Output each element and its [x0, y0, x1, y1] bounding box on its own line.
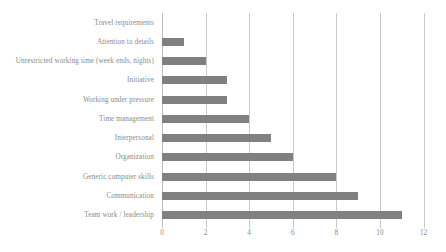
bar-row	[162, 90, 424, 109]
x-tick-mark	[336, 225, 337, 228]
bar	[162, 153, 293, 161]
category-label: Communication	[106, 192, 154, 200]
bar	[162, 115, 249, 123]
category-label: Initiative	[127, 76, 154, 84]
x-tick-mark	[380, 225, 381, 228]
x-tick-label: 2	[204, 229, 208, 237]
category-label-cell: Time management	[0, 109, 158, 128]
category-label: Generic computer skills	[83, 173, 154, 181]
x-tick-mark	[293, 225, 294, 228]
x-tick-label: 4	[247, 229, 251, 237]
category-label: Interpersonal	[115, 134, 154, 142]
category-label: Travel requirements	[94, 19, 154, 27]
x-tick-label: 8	[335, 229, 339, 237]
x-tick-label: 6	[291, 229, 295, 237]
bar-row	[162, 52, 424, 71]
bar-row	[162, 32, 424, 51]
x-tick-mark	[424, 225, 425, 228]
category-label: Team work / leadership	[84, 211, 154, 219]
bar-row	[162, 129, 424, 148]
bar-row	[162, 186, 424, 205]
bar	[162, 173, 336, 181]
category-label-cell: Travel requirements	[0, 13, 158, 32]
x-tick-mark	[249, 225, 250, 228]
bar	[162, 192, 358, 200]
x-tick-mark	[206, 225, 207, 228]
category-axis: Travel requirementsAttention to detailsU…	[0, 13, 158, 225]
category-label: Unrestricted working time (week ends, ni…	[16, 57, 154, 65]
bar-row	[162, 206, 424, 225]
bar-row	[162, 13, 424, 32]
category-label: Attention to details	[97, 38, 154, 46]
category-label-cell: Attention to details	[0, 32, 158, 51]
category-label-cell: Unrestricted working time (week ends, ni…	[0, 52, 158, 71]
category-label-cell: Generic computer skills	[0, 167, 158, 186]
category-label: Time management	[99, 115, 154, 123]
category-label-cell: Initiative	[0, 71, 158, 90]
category-label: Organization	[115, 153, 154, 161]
bar	[162, 134, 271, 142]
bar	[162, 96, 227, 104]
category-label-cell: Interpersonal	[0, 129, 158, 148]
x-tick-label: 0	[160, 229, 164, 237]
bars-layer	[162, 13, 424, 225]
category-label-cell: Team work / leadership	[0, 206, 158, 225]
category-label-cell: Organization	[0, 148, 158, 167]
bar-row	[162, 109, 424, 128]
bar	[162, 57, 206, 65]
category-label: Working under pressure	[83, 96, 154, 104]
plot-area	[162, 13, 424, 225]
value-axis: 024681012	[162, 225, 424, 245]
x-tick-mark	[162, 225, 163, 228]
bar	[162, 76, 227, 84]
gridline-12	[424, 13, 425, 225]
bar-row	[162, 71, 424, 90]
bar	[162, 38, 184, 46]
x-tick-label: 10	[376, 229, 383, 237]
category-label-cell: Working under pressure	[0, 90, 158, 109]
bar-row	[162, 167, 424, 186]
bar-row	[162, 148, 424, 167]
category-label-cell: Communication	[0, 186, 158, 205]
bar	[162, 211, 402, 219]
bar-chart: Travel requirementsAttention to detailsU…	[0, 0, 446, 252]
x-tick-label: 12	[420, 229, 427, 237]
